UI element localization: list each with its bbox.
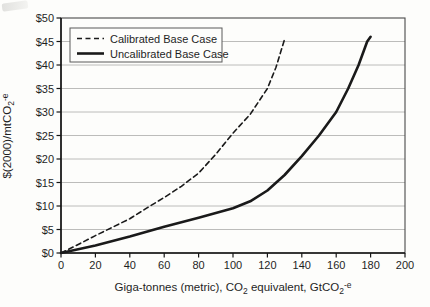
x-axis-title: Giga-tonnes (metric), CO2 equivalent, Gt… [115,280,352,296]
y-tick-label: $35 [36,83,54,95]
line-chart: $0$5$10$15$20$25$30$35$40$45$50020406080… [0,0,430,307]
legend: Calibrated Base Case Uncalibrated Base C… [70,28,229,62]
x-tick-label: 160 [327,259,345,271]
x-tick-label: 60 [158,259,170,271]
y-axis-title: $(2000)/mtCO2-e [0,93,16,178]
legend-label-calibrated: Calibrated Base Case [110,33,217,45]
y-tick-label: $30 [36,106,54,118]
y-tick-label: $5 [42,224,54,236]
y-tick-label: $50 [36,12,54,24]
y-tick-label: $10 [36,200,54,212]
legend-label-uncalibrated: Uncalibrated Base Case [110,48,229,60]
x-tick-label: 140 [293,259,311,271]
y-tick-label: $40 [36,59,54,71]
y-tick-label: $25 [36,130,54,142]
x-tick-label: 200 [396,259,414,271]
x-tick-label: 0 [58,259,64,271]
y-tick-label: $15 [36,177,54,189]
x-tick-label: 80 [192,259,204,271]
y-tick-label: $0 [42,247,54,259]
y-tick-label: $20 [36,153,54,165]
chart-figure: $0$5$10$15$20$25$30$35$40$45$50020406080… [0,0,430,307]
x-tick-label: 180 [361,259,379,271]
series-dashed-curve [61,39,285,253]
x-tick-label: 20 [89,259,101,271]
y-tick-label: $45 [36,36,54,48]
x-tick-label: 120 [258,259,276,271]
x-tick-label: 40 [124,259,136,271]
series-solid-curve [61,37,371,253]
x-tick-label: 100 [224,259,242,271]
